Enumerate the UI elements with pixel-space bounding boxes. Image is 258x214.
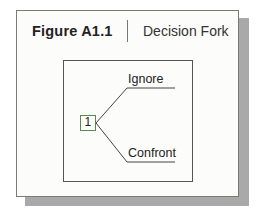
decision-node-label: 1 [85, 115, 92, 129]
decision-fork-diagram [0, 0, 258, 214]
branch-confront-label: Confront [128, 146, 176, 160]
branch-ignore-line [96, 88, 175, 123]
branch-ignore-label: Ignore [128, 72, 163, 86]
